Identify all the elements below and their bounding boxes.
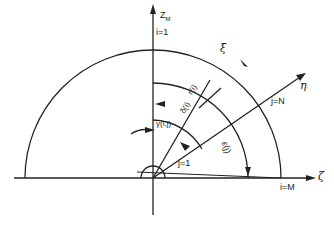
eta-label: η	[300, 80, 307, 91]
xi-label: ξ	[220, 43, 226, 54]
j-n-label: j=N	[271, 97, 285, 106]
zeta-label: ζ	[318, 171, 324, 182]
z-axis-label: ZM	[160, 11, 171, 22]
i-top-label: i=1	[156, 28, 168, 37]
j-1-label: j=1	[178, 159, 190, 168]
i-m-label: i=M	[280, 183, 295, 192]
gamma-ij-label: γ̅(i,j)	[156, 120, 171, 128]
